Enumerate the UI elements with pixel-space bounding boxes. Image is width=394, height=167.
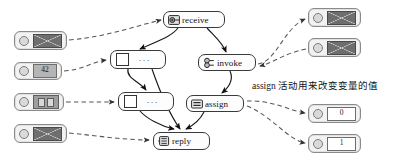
activity-node-assign[interactable]: assign xyxy=(186,95,244,112)
variable-handle-icon xyxy=(313,13,323,23)
variable-handle-icon xyxy=(313,109,323,119)
variable-box-out-message-2[interactable] xyxy=(308,38,361,57)
control-flow-edges xyxy=(128,28,231,129)
variable-box-number-0[interactable]: 0 xyxy=(308,104,361,123)
envelope-icon xyxy=(33,34,62,48)
array-pair-icon xyxy=(33,95,59,109)
assign-annotation-text: assign 活动用来改变变量的值 xyxy=(252,78,378,92)
invoke-activity-icon xyxy=(203,57,215,69)
variable-box-in-message-2[interactable] xyxy=(14,124,67,143)
variable-value: 0 xyxy=(327,107,356,121)
variable-box-number-42[interactable]: 42 xyxy=(14,62,62,80)
payload-slot: 42 xyxy=(33,65,57,77)
activity-label: invoke xyxy=(217,58,242,68)
reply-activity-icon xyxy=(158,135,170,147)
variable-box-array-pair[interactable] xyxy=(14,93,64,111)
scope-node-upper[interactable]: ··· xyxy=(110,50,166,69)
activity-node-reply[interactable]: reply xyxy=(153,132,210,150)
scope-node-lower[interactable]: ··· xyxy=(118,92,174,111)
activity-label: assign xyxy=(205,99,228,109)
activity-node-receive[interactable]: receive xyxy=(163,11,225,28)
scope-square-icon xyxy=(116,53,129,66)
payload-slot xyxy=(327,42,356,54)
payload-slot: 1 xyxy=(327,138,356,150)
payload-slot xyxy=(33,128,62,140)
scope-ellipsis: ··· xyxy=(129,57,160,63)
activity-label: reply xyxy=(172,136,191,146)
receive-activity-icon xyxy=(168,14,180,26)
envelope-icon xyxy=(327,41,356,55)
variable-value: 1 xyxy=(327,137,356,151)
variable-handle-icon xyxy=(313,43,323,53)
payload-slot: 0 xyxy=(327,108,356,120)
variable-handle-icon xyxy=(19,129,29,139)
process-diagram-canvas: 42 0 1 xyxy=(0,0,394,167)
assign-activity-icon xyxy=(191,98,203,110)
activity-node-invoke[interactable]: invoke xyxy=(198,54,256,71)
variable-handle-icon xyxy=(19,66,29,76)
variable-box-out-message-1[interactable] xyxy=(308,8,361,27)
scope-ellipsis: ··· xyxy=(137,99,168,105)
variable-handle-icon xyxy=(313,139,323,149)
variable-handle-icon xyxy=(19,97,29,107)
payload-slot xyxy=(33,35,62,47)
envelope-icon xyxy=(33,127,62,141)
payload-slot xyxy=(327,12,356,24)
envelope-icon xyxy=(327,11,356,25)
payload-slot xyxy=(33,96,59,108)
variable-box-number-1[interactable]: 1 xyxy=(308,134,361,153)
variable-handle-icon xyxy=(19,36,29,46)
scope-square-icon xyxy=(124,95,137,108)
variable-value: 42 xyxy=(33,64,57,78)
variable-box-in-message-1[interactable] xyxy=(14,31,67,50)
activity-label: receive xyxy=(182,15,209,25)
